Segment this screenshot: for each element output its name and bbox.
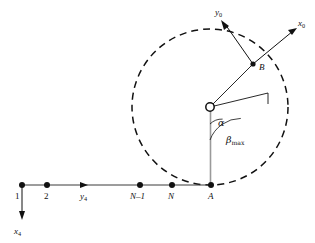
node-1-label: 1: [15, 191, 20, 201]
y0-axis-label: y0: [214, 7, 222, 18]
beta-max-angle-label: βmax: [225, 134, 245, 146]
y0-axis-subscript: 0: [219, 11, 222, 18]
y4-arrowhead: [80, 182, 88, 188]
x0-axis-label: x0: [297, 18, 305, 29]
x0-axis-subscript: 0: [302, 22, 305, 29]
x0-axis-line: [253, 31, 293, 64]
x4-arrowhead: [19, 211, 25, 220]
kinematic-diagram: 1 2 N–1 N A y4 x4 B x0 y0 α βmax: [0, 0, 315, 243]
chain-node: [19, 182, 25, 188]
x4-axis-label: x4: [13, 226, 21, 237]
node-n-label: N: [167, 191, 175, 201]
beta-max-ray: [210, 93, 268, 107]
chain-node: [169, 182, 175, 188]
chain-node: [44, 182, 50, 188]
x4-axis-subscript: 4: [18, 230, 21, 237]
beta-max-subscript: max: [232, 139, 246, 146]
y0-axis-line: [225, 24, 253, 64]
chain-node: [137, 182, 143, 188]
point-b-marker: [250, 61, 255, 66]
radius-center-to-b: [210, 64, 253, 107]
node-n-minus-1-label: N–1: [129, 191, 145, 201]
node-2-label: 2: [44, 191, 49, 201]
alpha-angle-label: α: [218, 117, 225, 128]
point-b-label: B: [259, 62, 265, 72]
y4-axis-subscript: 4: [84, 195, 87, 202]
circle-center-marker: [206, 103, 214, 111]
chain-node-a: [208, 182, 214, 188]
point-a-label: A: [207, 191, 214, 201]
y4-axis-label: y4: [79, 191, 87, 202]
diagram-canvas: 1 2 N–1 N A y4 x4 B x0 y0 α βmax: [0, 0, 315, 243]
